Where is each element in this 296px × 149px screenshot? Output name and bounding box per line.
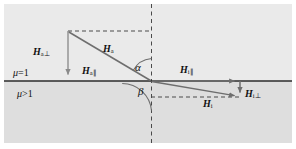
medium-label-upper: μ=1 bbox=[13, 68, 29, 78]
vector-subscript: a⊥ bbox=[41, 50, 50, 57]
vector-subscript: i bbox=[211, 102, 213, 109]
vector-subscript: i⊥ bbox=[253, 92, 261, 99]
vector-subscript: a∥ bbox=[90, 69, 97, 76]
vector-subscript: i∥ bbox=[188, 68, 194, 75]
figure-canvas: Ha⊥ Ha Ha∥ Hi∥ Hi⊥ Hi α β μ=1 μ>1 bbox=[0, 0, 296, 149]
vector-symbol-H: H bbox=[103, 43, 111, 54]
vector-label-Hi: Hi bbox=[203, 99, 213, 110]
vector-diagram-svg bbox=[0, 0, 296, 149]
vector-symbol-H: H bbox=[82, 65, 90, 76]
vector-label-Hi-par: Hi∥ bbox=[180, 65, 194, 76]
vector-symbol-H: H bbox=[203, 98, 211, 109]
vector-Hi-line bbox=[152, 82, 235, 96]
vector-symbol-H: H bbox=[245, 88, 253, 99]
vector-symbol-H: H bbox=[180, 64, 188, 75]
mu-relation-lower: >1 bbox=[22, 88, 33, 99]
vector-subscript: a bbox=[111, 47, 114, 54]
vector-label-Hi-perp: Hi⊥ bbox=[245, 89, 261, 100]
vector-label-Ha-perp: Ha⊥ bbox=[33, 47, 50, 58]
vector-Ha-line bbox=[68, 32, 151, 81]
angle-label-alpha: α bbox=[135, 62, 141, 73]
angle-beta-arc bbox=[122, 84, 151, 111]
angle-label-beta: β bbox=[138, 86, 143, 97]
vector-label-Ha-par: Ha∥ bbox=[82, 66, 97, 77]
medium-label-lower: μ>1 bbox=[17, 89, 33, 99]
vector-symbol-H: H bbox=[33, 46, 41, 57]
vector-label-Ha: Ha bbox=[103, 44, 114, 55]
mu-relation-upper: =1 bbox=[18, 67, 29, 78]
